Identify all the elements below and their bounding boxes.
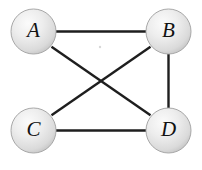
node-d-label: D <box>160 117 176 141</box>
node-a[interactable]: A <box>11 9 56 54</box>
node-b-label: B <box>162 18 175 42</box>
graph-canvas: A B C D <box>0 0 202 170</box>
node-c-label: C <box>26 117 41 141</box>
scan-speck-artifact <box>99 46 101 48</box>
graph-figure: A B C D <box>0 0 202 170</box>
node-d[interactable]: D <box>146 108 191 153</box>
node-c[interactable]: C <box>11 108 56 153</box>
node-b[interactable]: B <box>146 9 191 54</box>
node-a-label: A <box>25 18 40 42</box>
